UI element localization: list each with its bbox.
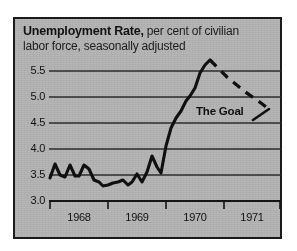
x-tick-label: 1971 bbox=[228, 211, 276, 223]
x-tick-label: 1969 bbox=[113, 211, 161, 223]
y-tick-label: 3.0 bbox=[19, 194, 45, 206]
goal-annotation-label: The Goal bbox=[196, 105, 244, 117]
y-tick-label: 3.5 bbox=[19, 168, 45, 180]
x-tick-label: 1968 bbox=[55, 211, 103, 223]
x-tick-label: 1970 bbox=[171, 211, 219, 223]
goal-pointer-icon bbox=[253, 109, 269, 120]
series-line-goal bbox=[210, 60, 270, 110]
x-axis bbox=[49, 201, 281, 209]
y-tick-label: 4.0 bbox=[19, 142, 45, 154]
y-tick-label: 5.5 bbox=[19, 64, 45, 76]
chart-plot-area bbox=[15, 19, 284, 241]
y-tick-label: 4.5 bbox=[19, 116, 45, 128]
chart-figure: Unemployment Rate, per cent of civilian … bbox=[0, 0, 297, 251]
y-tick-label: 5.0 bbox=[19, 90, 45, 102]
chart-panel: Unemployment Rate, per cent of civilian … bbox=[13, 17, 282, 239]
